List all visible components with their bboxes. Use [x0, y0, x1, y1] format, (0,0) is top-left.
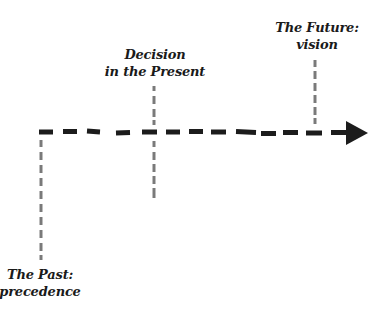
- arrowhead-icon: [346, 121, 368, 145]
- future-label: The Future: vision: [275, 19, 359, 53]
- past-label-line1: The Past:: [0, 266, 81, 283]
- future-label-line2: vision: [275, 36, 359, 53]
- main-timeline-line: [39, 131, 348, 134]
- past-label: The Past: precedence: [0, 266, 81, 300]
- present-label-line2: in the Present: [105, 63, 205, 80]
- future-label-line1: The Future:: [275, 19, 359, 36]
- present-label-line1: Decision: [105, 46, 205, 63]
- past-label-line2: precedence: [0, 283, 81, 300]
- timeline-diagram: The Future: vision Decision in the Prese…: [0, 0, 382, 317]
- present-label: Decision in the Present: [105, 46, 205, 80]
